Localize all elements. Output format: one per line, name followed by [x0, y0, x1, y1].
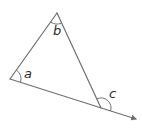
- angle-label-c: c: [109, 86, 116, 101]
- angle-arc-a: [16, 70, 21, 82]
- side-top-right: [57, 13, 101, 108]
- base-extended-ray: [10, 79, 136, 119]
- angle-label-a: a: [24, 66, 32, 81]
- angle-label-b: b: [53, 23, 61, 38]
- side-left-top: [10, 13, 57, 79]
- triangle-diagram: b a c: [0, 0, 142, 131]
